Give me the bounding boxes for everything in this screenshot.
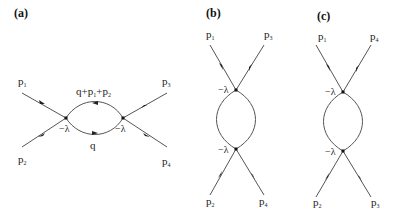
arrow-p1 [39, 100, 45, 104]
label-p3: p3 [371, 196, 380, 209]
panel-a-label: (a) [14, 6, 28, 20]
external-line-p4 [236, 149, 264, 195]
external-line-p1 [22, 93, 66, 118]
label-p1: p1 [318, 30, 327, 43]
label-p2: p2 [313, 196, 322, 209]
label-p4: p4 [259, 195, 268, 208]
vertex-bottom [235, 148, 238, 151]
label-p4: p4 [370, 30, 379, 43]
loop-right-propagator [236, 90, 256, 149]
panel-c-label: (c) [317, 9, 330, 23]
loop-left-propagator [324, 92, 344, 151]
vertex-bottom-coupling: −λ [218, 144, 229, 155]
loop-left-propagator [217, 90, 237, 149]
panel-a: (a) p1 p2 p3 p4 q+p1+p2 q −λ −λ [14, 6, 171, 168]
label-p3: p3 [264, 28, 273, 41]
vertex-top [342, 91, 345, 94]
label-p2: p2 [206, 195, 215, 208]
loop-right-propagator [343, 92, 363, 151]
vertex-right-coupling: −λ [115, 123, 126, 134]
arrow-p3 [141, 105, 147, 108]
panel-c: (c) p1 p4 p2 p3 −λ −λ [313, 9, 380, 209]
external-line-p4 [123, 118, 167, 147]
vertex-bottom [342, 150, 345, 153]
vertex-top-coupling: −λ [325, 86, 336, 97]
label-p1: p1 [206, 28, 215, 41]
external-line-p2 [316, 151, 343, 197]
panel-b: (b) p1 p3 p2 p4 −λ −λ [206, 6, 273, 208]
label-loop-bottom-momentum: q [90, 139, 96, 151]
vertex-top-coupling: −λ [218, 84, 229, 95]
vertex-right [122, 117, 125, 120]
external-line-p3 [343, 151, 371, 197]
label-p3: p3 [162, 75, 171, 88]
arrow-p4 [356, 65, 359, 72]
vertex-left [65, 117, 68, 120]
loop-top-propagator [66, 102, 123, 119]
label-loop-top-momentum: q+p1+p2 [76, 85, 111, 98]
feynman-diagrams: (a) p1 p2 p3 p4 q+p1+p2 q −λ −λ (b) [0, 0, 396, 213]
label-p1: p1 [18, 75, 27, 88]
external-line-p2 [210, 149, 236, 195]
vertex-left-coupling: −λ [59, 123, 70, 134]
vertex-bottom-coupling: −λ [325, 146, 336, 157]
label-p4: p4 [162, 155, 171, 168]
label-p2: p2 [18, 153, 27, 166]
panel-b-label: (b) [206, 6, 221, 20]
vertex-top [235, 89, 238, 92]
